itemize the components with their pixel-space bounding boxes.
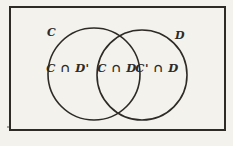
set-label-d: D: [175, 29, 185, 42]
region-label-c-only: C ∩ D': [46, 61, 89, 75]
scan-speck: [7, 126, 9, 128]
region-label-intersection: C ∩ D: [97, 61, 136, 75]
region-label-d-only: C' ∩ D: [135, 61, 178, 75]
venn-diagram-figure: C D C ∩ D' C ∩ D C' ∩ D: [0, 0, 233, 146]
set-label-c: C: [47, 26, 56, 39]
circle-d: [97, 30, 187, 120]
